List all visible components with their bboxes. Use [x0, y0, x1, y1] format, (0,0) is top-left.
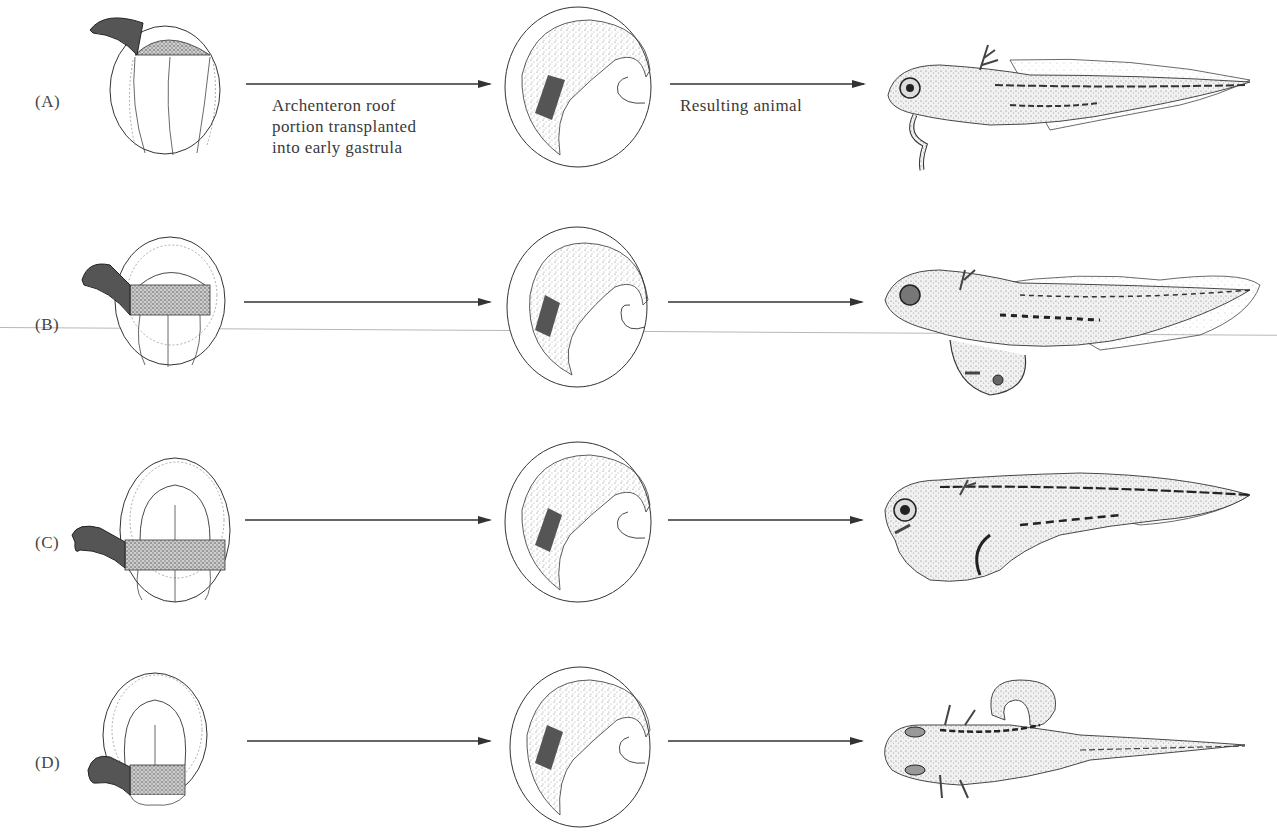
host-gastrula-d — [505, 665, 665, 835]
donor-gastrula-a — [85, 5, 225, 155]
host-gastrula-a — [500, 5, 660, 175]
row-label: (A) — [35, 92, 60, 112]
result-caption: Resulting animal — [680, 95, 802, 116]
resulting-larva-c — [880, 465, 1260, 595]
row-label: (D) — [35, 753, 60, 773]
resulting-larva-a — [880, 40, 1260, 180]
transplant-caption: Archenteron roof portion transplanted in… — [272, 95, 416, 158]
row-label: (B) — [35, 315, 59, 335]
arrow-result-d — [0, 0, 1, 1]
resulting-larva-b — [880, 255, 1260, 405]
host-gastrula-b — [500, 225, 660, 395]
donor-gastrula-c — [70, 450, 220, 610]
resulting-larva-d — [880, 670, 1260, 810]
donor-gastrula-b — [80, 235, 230, 375]
host-gastrula-c — [500, 440, 660, 610]
donor-gastrula-d — [85, 665, 215, 815]
row-label: (C) — [35, 533, 59, 553]
